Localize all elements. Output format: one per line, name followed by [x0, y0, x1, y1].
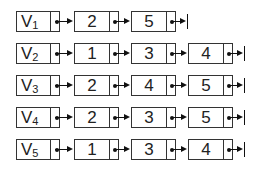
node-value: 2: [75, 108, 110, 127]
arrowhead-icon: [180, 18, 186, 24]
vertex-head-node: V2: [16, 43, 60, 64]
node-value: 4: [189, 140, 224, 159]
arrowhead-icon: [67, 146, 73, 152]
vertex-letter: V: [21, 76, 32, 95]
vertex-head-node: V3: [16, 75, 60, 96]
list-node: 2: [74, 75, 119, 96]
arrowhead-icon: [181, 82, 187, 88]
list-node: 5: [131, 11, 176, 32]
null-terminator-icon: [244, 46, 245, 61]
vertex-letter: V: [21, 44, 32, 63]
arrowhead-icon: [181, 114, 187, 120]
list-node: 1: [74, 139, 119, 160]
arrowhead-icon: [124, 114, 130, 120]
node-value: 3: [132, 140, 167, 159]
null-terminator-icon: [244, 78, 245, 93]
vertex-label: V4: [17, 108, 51, 127]
list-node: 2: [74, 107, 119, 128]
list-node: 4: [188, 43, 233, 64]
list-node: 5: [188, 107, 233, 128]
list-node: 3: [131, 139, 176, 160]
arrowhead-icon: [124, 50, 130, 56]
arrowhead-icon: [67, 50, 73, 56]
null-terminator-icon: [187, 14, 188, 29]
vertex-subscript: 1: [32, 19, 38, 31]
node-value: 1: [75, 140, 110, 159]
node-value: 2: [75, 76, 110, 95]
vertex-label: V3: [17, 76, 51, 95]
arrowhead-icon: [124, 82, 130, 88]
vertex-letter: V: [21, 140, 32, 159]
vertex-subscript: 3: [32, 83, 38, 95]
list-node: 5: [188, 75, 233, 96]
arrowhead-icon: [67, 18, 73, 24]
vertex-subscript: 4: [32, 115, 38, 127]
arrowhead-icon: [181, 50, 187, 56]
null-terminator-icon: [244, 110, 245, 125]
node-value: 4: [189, 44, 224, 63]
vertex-head-node: V4: [16, 107, 60, 128]
vertex-subscript: 2: [32, 51, 38, 63]
arrowhead-icon: [67, 114, 73, 120]
list-node: 1: [74, 43, 119, 64]
arrowhead-icon: [237, 114, 243, 120]
vertex-label: V5: [17, 140, 51, 159]
arrowhead-icon: [237, 146, 243, 152]
arrowhead-icon: [181, 146, 187, 152]
node-value: 3: [132, 44, 167, 63]
list-node: 3: [131, 43, 176, 64]
arrowhead-icon: [124, 146, 130, 152]
list-node: 4: [188, 139, 233, 160]
node-value: 3: [132, 108, 167, 127]
node-value: 2: [75, 12, 110, 31]
arrowhead-icon: [237, 82, 243, 88]
list-node: 4: [131, 75, 176, 96]
node-value: 1: [75, 44, 110, 63]
vertex-subscript: 5: [32, 147, 38, 159]
vertex-head-node: V5: [16, 139, 60, 160]
vertex-label: V1: [17, 12, 51, 31]
arrowhead-icon: [124, 18, 130, 24]
vertex-letter: V: [21, 108, 32, 127]
node-value: 5: [132, 12, 167, 31]
list-node: 3: [131, 107, 176, 128]
vertex-letter: V: [21, 12, 32, 31]
node-value: 5: [189, 108, 224, 127]
vertex-label: V2: [17, 44, 51, 63]
node-value: 5: [189, 76, 224, 95]
vertex-head-node: V1: [16, 11, 60, 32]
arrowhead-icon: [237, 50, 243, 56]
null-terminator-icon: [244, 142, 245, 157]
node-value: 4: [132, 76, 167, 95]
list-node: 2: [74, 11, 119, 32]
arrowhead-icon: [67, 82, 73, 88]
